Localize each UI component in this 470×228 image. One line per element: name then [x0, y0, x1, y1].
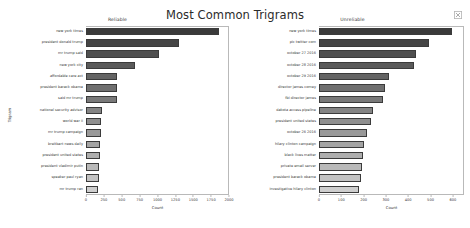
- bar-category-label: october 26 2016: [287, 131, 316, 135]
- x-axis-tick: 0: [318, 195, 320, 202]
- bar-row: new york city: [86, 61, 228, 69]
- bar: [86, 28, 219, 35]
- bar-category-label: speaker paul ryan: [52, 176, 84, 180]
- bar-row: october 26 2016: [319, 129, 463, 137]
- tick-mark: [86, 195, 87, 197]
- bar-row: mr trump said: [86, 50, 228, 58]
- tick-label: 200: [360, 198, 367, 202]
- tick-label: 0: [318, 198, 320, 202]
- tick-mark: [139, 195, 140, 197]
- bar-category-label: mr trump ran: [59, 188, 83, 192]
- tick-mark: [408, 195, 409, 197]
- tick-label: 250: [100, 198, 107, 202]
- bar-row: new york times: [319, 28, 463, 36]
- tick-label: 1500: [189, 198, 198, 202]
- x-axis-tick: 1500: [189, 195, 198, 202]
- bar-category-label: said mr trump: [58, 97, 83, 101]
- bar-row: fbi director james: [319, 95, 463, 103]
- bar-category-label: president donald trump: [42, 41, 83, 45]
- bar: [86, 129, 101, 136]
- tick-mark: [211, 195, 212, 197]
- tick-mark: [103, 195, 104, 197]
- bar-category-label: national security advisor: [40, 109, 83, 113]
- y-axis-title-left: Trigram: [7, 108, 12, 123]
- tick-label: 750: [136, 198, 143, 202]
- bar-rows-right: new york timespic twitter comoctober 27 …: [319, 26, 463, 195]
- tick-mark: [386, 195, 387, 197]
- bar-category-label: dakota access pipeline: [276, 109, 316, 113]
- bar: [86, 39, 179, 46]
- tick-label: 400: [405, 198, 412, 202]
- bar-category-label: breitbart news daily: [48, 143, 83, 147]
- subplot-title-reliable: Reliable: [0, 17, 235, 22]
- bar-category-label: new york times: [289, 30, 316, 34]
- bar-category-label: black lives matter: [285, 154, 316, 158]
- bar: [319, 129, 367, 136]
- bar-row: october 27 2016: [319, 50, 463, 58]
- tick-label: 2000: [224, 198, 233, 202]
- bar-category-label: hilary clinton campaign: [275, 143, 316, 147]
- tick-label: 1250: [171, 198, 180, 202]
- x-axis-tick: 750: [136, 195, 143, 202]
- bar-row: director james comey: [319, 84, 463, 92]
- bar-category-label: october 27 2016: [287, 52, 316, 56]
- bar: [86, 118, 101, 125]
- plot-area-reliable: new york timespresident donald trumpmr t…: [86, 26, 229, 195]
- bar: [319, 141, 364, 148]
- tick-mark: [229, 195, 230, 197]
- bar-row: world war ii: [86, 118, 228, 126]
- tick-label: 500: [118, 198, 125, 202]
- bar-category-label: mr trump campaign: [48, 131, 83, 135]
- bar-row: president united states: [319, 118, 463, 126]
- x-axis-title-right: Count: [319, 205, 464, 210]
- bar: [319, 84, 385, 91]
- bar: [86, 84, 117, 91]
- x-axis-title-left: Count: [86, 205, 229, 210]
- bar-row: national security advisor: [86, 106, 228, 114]
- bar-category-label: president united states: [275, 120, 316, 124]
- bar-row: black lives matter: [319, 151, 463, 159]
- tick-label: 0: [85, 198, 87, 202]
- bar-category-label: october 29 2016: [287, 75, 316, 79]
- x-axis-ticks-right: 0100200300400500600: [319, 195, 464, 205]
- bar-row: president vladimir putin: [86, 163, 228, 171]
- tick-label: 500: [427, 198, 434, 202]
- bar-category-label: october 28 2016: [287, 64, 316, 68]
- bar-row: private email server: [319, 163, 463, 171]
- tick-mark: [121, 195, 122, 197]
- bar: [319, 163, 362, 170]
- x-axis-tick: 1000: [153, 195, 162, 202]
- x-axis-tick: 500: [427, 195, 434, 202]
- bar-row: dakota access pipeline: [319, 106, 463, 114]
- x-axis-tick: 250: [100, 195, 107, 202]
- x-axis-tick: 200: [360, 195, 367, 202]
- bar-row: president donald trump: [86, 39, 228, 47]
- bar-category-label: new york city: [60, 64, 83, 68]
- bar-row: president united states: [86, 151, 228, 159]
- bar: [86, 152, 100, 159]
- matplotlib-figure: Most Common Trigrams Reliable Trigram ne…: [0, 0, 470, 228]
- x-axis-tick: 500: [118, 195, 125, 202]
- bar: [319, 118, 371, 125]
- bar: [86, 163, 99, 170]
- bar-category-label: fbi director james: [285, 97, 316, 101]
- bar-category-label: private email server: [281, 165, 316, 169]
- bar-row: mr trump ran: [86, 185, 228, 193]
- bar-category-label: pic twitter com: [290, 41, 316, 45]
- bar-category-label: president barack obama: [273, 176, 316, 180]
- bar-row: hilary clinton campaign: [319, 140, 463, 148]
- tick-mark: [452, 195, 453, 197]
- x-axis-tick: 600: [449, 195, 456, 202]
- x-axis-tick: 2000: [224, 195, 233, 202]
- bar-category-label: investigative hilary clinton: [270, 188, 316, 192]
- bar: [319, 50, 416, 57]
- bar: [319, 186, 359, 193]
- x-axis-tick: 300: [382, 195, 389, 202]
- tick-mark: [430, 195, 431, 197]
- bar-category-label: president united states: [42, 154, 83, 158]
- bar: [86, 107, 102, 114]
- x-axis-tick: 0: [85, 195, 87, 202]
- x-axis-tick: 400: [405, 195, 412, 202]
- tick-mark: [341, 195, 342, 197]
- bar-category-label: new york times: [56, 30, 83, 34]
